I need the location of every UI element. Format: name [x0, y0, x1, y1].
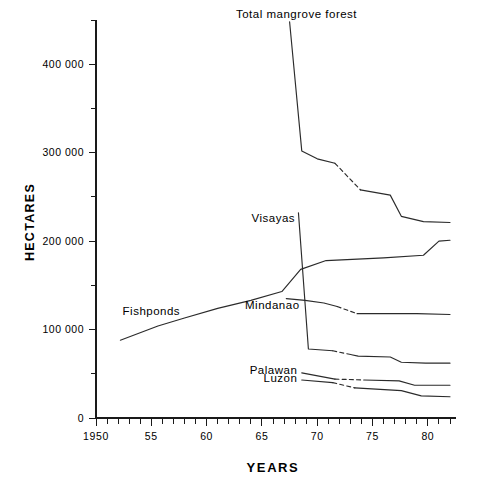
- y-tick-label-0: 0: [78, 412, 84, 424]
- x-tick-group: 1950556065707580: [83, 418, 450, 442]
- series-line-total-mangrove-forest-a: [290, 22, 335, 164]
- series-line-visayas-b: [352, 355, 450, 363]
- series-label-mindanao: Mindanao: [245, 299, 300, 311]
- x-axis-title: YEARS: [247, 460, 300, 475]
- series-line-visayas-a: [298, 213, 332, 351]
- series-line-luzon-dashed: [333, 383, 355, 388]
- series-label-group: Total mangrove forestFishpondsVisayasMin…: [123, 8, 358, 384]
- series-line-total-mangrove-forest-b: [360, 190, 450, 223]
- y-tick-group: 0100 000200 000300 000400 000: [43, 20, 96, 424]
- series-line-palawan-b: [364, 380, 450, 385]
- x-tick-label-0: 1950: [83, 430, 109, 442]
- y-tick-label-2: 100 000: [43, 323, 84, 335]
- x-tick-label-5: 75: [366, 430, 379, 442]
- series-line-visayas-dashed: [333, 351, 352, 355]
- x-tick-label-3: 65: [255, 430, 268, 442]
- series-line-luzon-b: [355, 388, 450, 397]
- series-label-visayas: Visayas: [252, 212, 296, 224]
- series-group: [120, 22, 450, 397]
- series-line-palawan-dashed: [335, 379, 364, 380]
- series-line-mindanao-b: [357, 314, 450, 315]
- series-label-total-mangrove-forest: Total mangrove forest: [236, 8, 357, 20]
- series-line-luzon-a: [302, 380, 333, 383]
- y-tick-label-6: 300 000: [43, 146, 84, 158]
- y-axis-title: HECTARES: [23, 183, 37, 261]
- x-tick-label-2: 60: [200, 430, 213, 442]
- chart-canvas: 0100 000200 000300 000400 000 1950556065…: [0, 0, 481, 480]
- series-label-fishponds: Fishponds: [123, 305, 181, 317]
- x-tick-label-1: 55: [145, 430, 158, 442]
- x-tick-label-4: 70: [311, 430, 324, 442]
- series-line-fishponds: [120, 240, 450, 340]
- y-tick-label-4: 200 000: [43, 235, 84, 247]
- mangrove-forest-chart: 0100 000200 000300 000400 000 1950556065…: [0, 0, 481, 480]
- x-tick-label-6: 80: [421, 430, 434, 442]
- y-tick-label-8: 400 000: [43, 58, 84, 70]
- series-line-palawan-a: [302, 373, 335, 379]
- series-line-total-mangrove-forest-dashed: [335, 163, 360, 190]
- series-line-mindanao-dashed: [337, 307, 357, 314]
- series-label-luzon: Luzon: [263, 372, 297, 384]
